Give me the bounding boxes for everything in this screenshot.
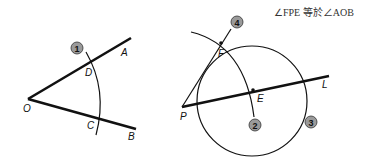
svg-text:3: 3 xyxy=(308,118,313,128)
ray-OB xyxy=(28,99,136,129)
step-marker-4: 4 xyxy=(231,16,243,28)
svg-text:4: 4 xyxy=(234,18,239,28)
left-figure: O A B C D 1 xyxy=(23,38,136,142)
label-O: O xyxy=(23,103,31,114)
step-marker-2: 2 xyxy=(249,119,261,131)
right-figure: P L E F 2 3 4 xyxy=(180,16,329,156)
label-F: F xyxy=(218,48,225,59)
ray-PF xyxy=(182,29,231,107)
label-E: E xyxy=(257,93,264,104)
label-D: D xyxy=(85,67,92,78)
step-marker-1: 1 xyxy=(71,42,83,54)
label-A: A xyxy=(120,47,128,58)
geometry-diagram: O A B C D 1 P L E F 2 3 4 xyxy=(0,0,375,158)
label-L: L xyxy=(322,79,328,90)
label-P: P xyxy=(180,111,187,122)
point-E xyxy=(251,88,255,92)
step-marker-3: 3 xyxy=(305,116,317,128)
label-B: B xyxy=(128,131,135,142)
svg-text:2: 2 xyxy=(252,121,257,131)
label-C: C xyxy=(87,120,95,131)
svg-text:1: 1 xyxy=(74,44,79,54)
point-F xyxy=(219,41,223,45)
